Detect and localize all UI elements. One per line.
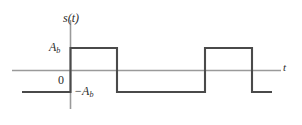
y-axis-label: s(t) xyxy=(63,12,79,24)
x-axis-label: t xyxy=(283,62,286,73)
tick-label-zero: 0 xyxy=(58,74,64,86)
tick-label-negative-amplitude: −Ab xyxy=(74,85,94,99)
tick-label-positive-amplitude: Ab xyxy=(49,41,60,55)
waveform-plot xyxy=(0,0,302,125)
tick-label-negative-amplitude-subscript: b xyxy=(89,90,93,99)
tick-label-positive-amplitude-subscript: b xyxy=(56,46,60,55)
signal-waveform-figure: s(t) t Ab 0 −Ab xyxy=(0,0,302,125)
tick-label-negative-amplitude-base: −A xyxy=(74,84,89,98)
